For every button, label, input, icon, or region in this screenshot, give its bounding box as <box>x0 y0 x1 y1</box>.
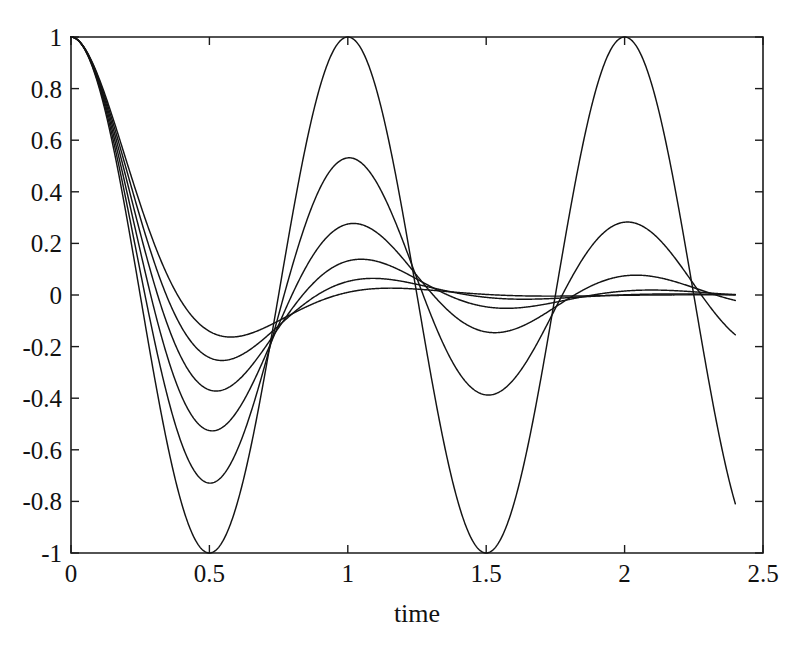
y-tick-label: 0 <box>50 282 63 309</box>
x-axis-title: time <box>394 599 440 628</box>
y-tick-label: -0.6 <box>22 437 62 464</box>
x-tick-label: 2.5 <box>747 560 778 587</box>
x-tick-label: 1.5 <box>471 560 502 587</box>
x-tick-label: 0 <box>65 560 78 587</box>
x-tick-label: 2 <box>618 560 631 587</box>
y-tick-label: 0.6 <box>31 127 62 154</box>
y-tick-label: 0.8 <box>31 76 62 103</box>
y-tick-label: 0.4 <box>31 179 63 206</box>
y-tick-label: 0.2 <box>31 230 62 257</box>
x-tick-label: 0.5 <box>194 560 225 587</box>
x-tick-label: 1 <box>342 560 355 587</box>
y-tick-label: -0.2 <box>22 334 62 361</box>
chart-background <box>0 0 812 652</box>
y-tick-label: -0.4 <box>22 385 62 412</box>
y-tick-label: -1 <box>41 540 62 567</box>
damped-oscillation-chart: 00.511.522.5 10.80.60.40.20-0.2-0.4-0.6-… <box>0 0 812 652</box>
y-tick-label: -0.8 <box>22 488 62 515</box>
y-tick-label: 1 <box>50 24 63 51</box>
